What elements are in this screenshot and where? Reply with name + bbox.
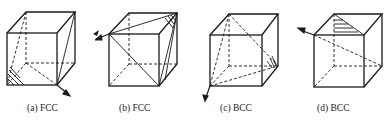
caption-b: (b) FCC [119,103,150,113]
caption-c: (c) BCC [220,103,252,113]
caption-a: (a) FCC [27,103,58,113]
panel-d-bcc: (d) BCC [285,0,387,126]
caption-d: (d) BCC [317,103,349,113]
panel-c-bcc: (c) BCC [190,0,290,126]
panel-b-fcc: (b) FCC [95,0,195,126]
panel-a-fcc: (a) FCC [0,0,100,126]
